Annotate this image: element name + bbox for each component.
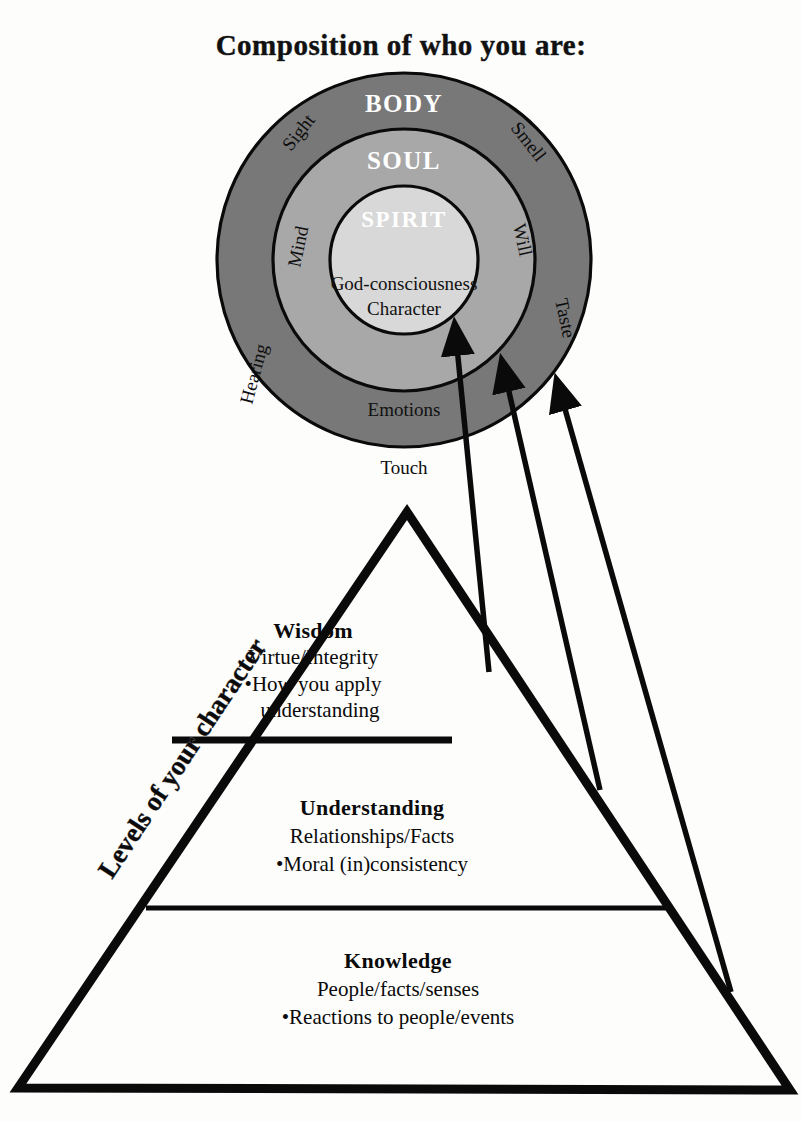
tier-wisdom-bullet: •How you apply: [245, 672, 382, 696]
body-label: BODY: [365, 90, 443, 117]
connector-arrows: [457, 347, 731, 992]
tier-understanding-subtitle: Relationships/Facts: [290, 824, 455, 848]
tier-understanding: Understanding Relationships/Facts •Moral…: [276, 795, 469, 876]
diagram-canvas: Composition of who you are: BODY SOUL SP…: [0, 0, 802, 1122]
soul-label: SOUL: [367, 147, 441, 174]
core-line-god-consciousness: God-consciousness: [331, 273, 478, 294]
tier-understanding-bullet: •Moral (in)consistency: [276, 852, 469, 876]
tier-wisdom-bullet-cont: understanding: [261, 698, 380, 722]
tier-knowledge-subtitle: People/facts/senses: [317, 977, 479, 1001]
tier-knowledge-bullet: •Reactions to people/events: [282, 1005, 514, 1029]
composition-and-character-diagram: Composition of who you are: BODY SOUL SP…: [0, 0, 802, 1122]
tier-wisdom: Wisdom Virtue/Integrity •How you apply u…: [245, 618, 382, 722]
tier-knowledge: Knowledge People/facts/senses •Reactions…: [282, 948, 514, 1029]
spirit-label: SPIRIT: [361, 207, 447, 232]
tier-understanding-title: Understanding: [300, 795, 445, 820]
arrow-to-body: [563, 402, 731, 992]
tier-knowledge-title: Knowledge: [344, 948, 452, 973]
page-title: Composition of who you are:: [216, 29, 587, 61]
core-line-character: Character: [367, 298, 442, 319]
tier-wisdom-title: Wisdom: [273, 618, 353, 643]
soul-faculty-emotions: Emotions: [368, 399, 441, 420]
composition-circles: BODY SOUL SPIRIT God-consciousness Chara…: [217, 73, 591, 478]
sense-label-touch: Touch: [380, 457, 428, 478]
